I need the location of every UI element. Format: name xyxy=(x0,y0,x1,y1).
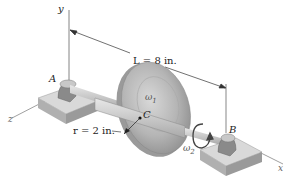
point-B-label: B xyxy=(229,125,236,135)
point-C-label: C xyxy=(143,110,151,120)
x-axis-label: x xyxy=(278,164,283,173)
dimension-r-label: r = 2 in. xyxy=(73,126,115,136)
z-axis-label: z xyxy=(8,115,13,124)
point-A-label: A xyxy=(49,74,56,84)
omega2-subscript: 2 xyxy=(190,148,194,156)
bearing-A xyxy=(38,80,100,124)
y-axis-label: y xyxy=(58,4,64,14)
omega1-subscript: 1 xyxy=(152,97,156,105)
dimension-L-label: L = 8 in. xyxy=(133,56,177,66)
omega1-label: ω1 xyxy=(145,93,157,105)
omega2-label: ω2 xyxy=(183,144,195,156)
